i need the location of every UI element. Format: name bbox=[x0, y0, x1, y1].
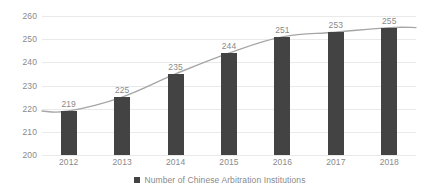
x-tick-label: 2016 bbox=[273, 158, 292, 167]
y-tick-label: 220 bbox=[23, 104, 37, 113]
bar bbox=[61, 111, 77, 155]
legend-item-label: Number of Chinese Arbitration Institutio… bbox=[144, 176, 305, 185]
data-label: 253 bbox=[329, 21, 343, 30]
y-tick-label: 200 bbox=[23, 151, 37, 160]
bar bbox=[328, 32, 344, 155]
bar bbox=[221, 53, 237, 155]
bar bbox=[168, 74, 184, 155]
data-label: 251 bbox=[275, 25, 289, 34]
data-label: 219 bbox=[61, 99, 75, 108]
x-tick-label: 2018 bbox=[380, 158, 399, 167]
y-tick-label: 210 bbox=[23, 128, 37, 137]
plot-area: 219225235244251253255 bbox=[42, 16, 416, 155]
x-tick-label: 2015 bbox=[219, 158, 238, 167]
y-tick-label: 250 bbox=[23, 35, 37, 44]
y-tick-label: 260 bbox=[23, 12, 37, 21]
x-axis: 2012201320142015201620172018 bbox=[42, 158, 416, 172]
x-tick-label: 2012 bbox=[59, 158, 78, 167]
data-label: 235 bbox=[168, 62, 182, 71]
y-axis: 200210220230240250260 bbox=[0, 0, 40, 195]
data-label: 225 bbox=[115, 86, 129, 95]
bar bbox=[381, 28, 397, 155]
y-tick-label: 230 bbox=[23, 81, 37, 90]
x-tick-label: 2017 bbox=[326, 158, 345, 167]
legend: Number of Chinese Arbitration Institutio… bbox=[0, 176, 440, 185]
gridline bbox=[42, 155, 416, 156]
x-tick-label: 2013 bbox=[112, 158, 131, 167]
legend-marker-icon bbox=[134, 177, 140, 183]
bar bbox=[274, 37, 290, 155]
bar bbox=[114, 97, 130, 155]
y-tick-label: 240 bbox=[23, 58, 37, 67]
data-label: 255 bbox=[382, 16, 396, 25]
x-tick-label: 2014 bbox=[166, 158, 185, 167]
chart-container: 200210220230240250260 219225235244251253… bbox=[0, 0, 440, 195]
data-label: 244 bbox=[222, 42, 236, 51]
